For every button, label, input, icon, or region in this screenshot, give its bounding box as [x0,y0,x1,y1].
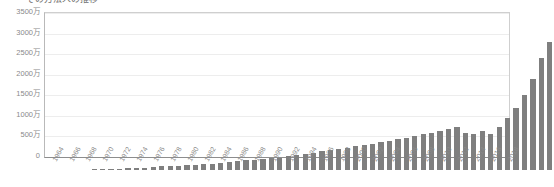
y-axis-tick-label: 2500万 [0,49,40,57]
bar [513,108,518,170]
y-axis-tick-label: 0 [0,152,40,160]
bar [547,42,552,170]
bar [539,58,544,170]
x-axis: 1964196619681970197219741976197819801982… [45,159,509,187]
bar [522,95,527,170]
y-axis-tick-label: 500万 [0,131,40,139]
gridline [45,13,509,14]
y-axis-tick-label: 2000万 [0,70,40,78]
plot-area [44,12,510,158]
y-axis-tick-label: 3500万 [0,8,40,16]
chart-title: その方法人の推移 [26,0,98,5]
y-axis-tick-label: 3000万 [0,29,40,37]
y-axis-tick-label: 1000万 [0,111,40,119]
bar [530,79,535,170]
y-axis-tick-label: 1500万 [0,90,40,98]
